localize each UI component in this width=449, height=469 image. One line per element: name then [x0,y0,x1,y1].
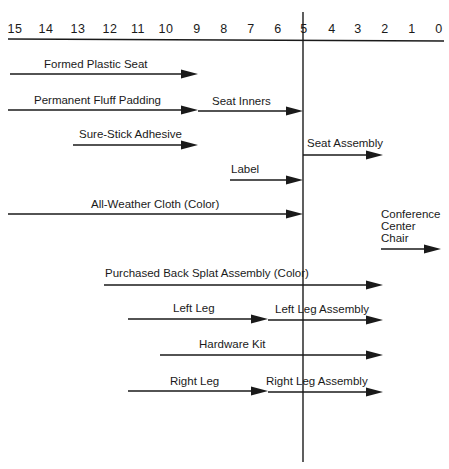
arrow-label: Seat Assembly [307,137,383,149]
arrowhead-icon [366,151,383,160]
arrowhead-icon [424,245,441,254]
arrow-label: Sure-Stick Adhesive [79,128,182,140]
axis-tick-label: 13 [71,22,86,36]
arrow-formed-plastic-seat: Formed Plastic Seat [10,58,198,79]
arrow-right-leg-assembly: Right Leg Assembly [266,375,383,397]
axis-line [8,39,444,41]
arrow-left-leg-assembly: Left Leg Assembly [268,303,383,325]
arrowhead-icon [251,315,268,324]
arrowhead-icon [181,106,198,115]
axis-tick-label: 5 [300,22,307,36]
arrowhead-icon [366,351,383,360]
axis-tick-label: 4 [328,22,335,36]
arrow-label-line: Conference [381,208,440,220]
axis-tick-label: 8 [220,22,227,36]
arrowhead-icon [286,210,303,219]
axis-tick-label: 3 [354,22,361,36]
axis-tick-label: 12 [103,22,118,36]
arrows: Formed Plastic SeatPermanent Fluff Paddi… [8,58,441,397]
arrow-label: Label [230,163,303,185]
axis-tick-label: 15 [8,22,23,36]
arrowhead-icon [181,70,198,79]
arrow-label-line: Chair [381,232,409,244]
arrowhead-icon [251,387,268,396]
axis-tick-label: 10 [159,22,174,36]
arrowhead-icon [181,141,198,150]
arrow-label: Purchased Back Splat Assembly (Color) [105,267,309,279]
axis-tick-label: 11 [131,22,145,36]
arrow-label: Seat Inners [212,95,271,107]
arrowhead-icon [366,316,383,325]
axis-tick-label: 9 [193,22,200,36]
axis-tick-label: 6 [274,22,281,36]
arrow-label: Permanent Fluff Padding [34,94,161,106]
arrow-label-line: Center [381,220,416,232]
arrow-conference-center-chair: ConferenceCenterChair [381,208,441,254]
arrow-hardware-kit: Hardware Kit [160,338,383,360]
arrow-left-leg: Left Leg [128,302,268,324]
arrow-label: Hardware Kit [199,338,266,350]
arrow-all-weather-cloth: All-Weather Cloth (Color) [8,198,303,219]
arrow-seat-inners: Seat Inners [198,95,303,116]
arrow-permanent-fluff-padding: Permanent Fluff Padding [8,94,198,115]
arrow-purchased-back-splat-assembly: Purchased Back Splat Assembly (Color) [104,267,383,290]
axis-tick-label: 0 [435,22,442,36]
arrow-seat-assembly: Seat Assembly [303,137,383,160]
axis-tick-label: 7 [247,22,254,36]
arrowhead-icon [286,176,303,185]
arrow-label: Left Leg Assembly [275,303,369,315]
assembly-diagram: 1514131211109876543210 Formed Plastic Se… [0,0,449,469]
axis-tick-label: 2 [381,22,388,36]
arrow-sure-stick-adhesive: Sure-Stick Adhesive [73,128,198,150]
arrow-right-leg: Right Leg [128,375,268,396]
arrow-label: Label [231,163,259,175]
arrow-label: Right Leg [170,375,219,387]
arrow-label: All-Weather Cloth (Color) [91,198,219,210]
arrow-label: Left Leg [173,302,215,314]
axis-tick-label: 14 [39,22,54,36]
arrowhead-icon [286,107,303,116]
axis-tick-label: 1 [408,22,415,36]
arrowhead-icon [366,388,383,397]
arrow-label: Formed Plastic Seat [44,58,148,70]
arrow-label: Right Leg Assembly [266,375,368,387]
arrowhead-icon [366,281,383,290]
time-axis: 1514131211109876543210 [8,22,444,41]
